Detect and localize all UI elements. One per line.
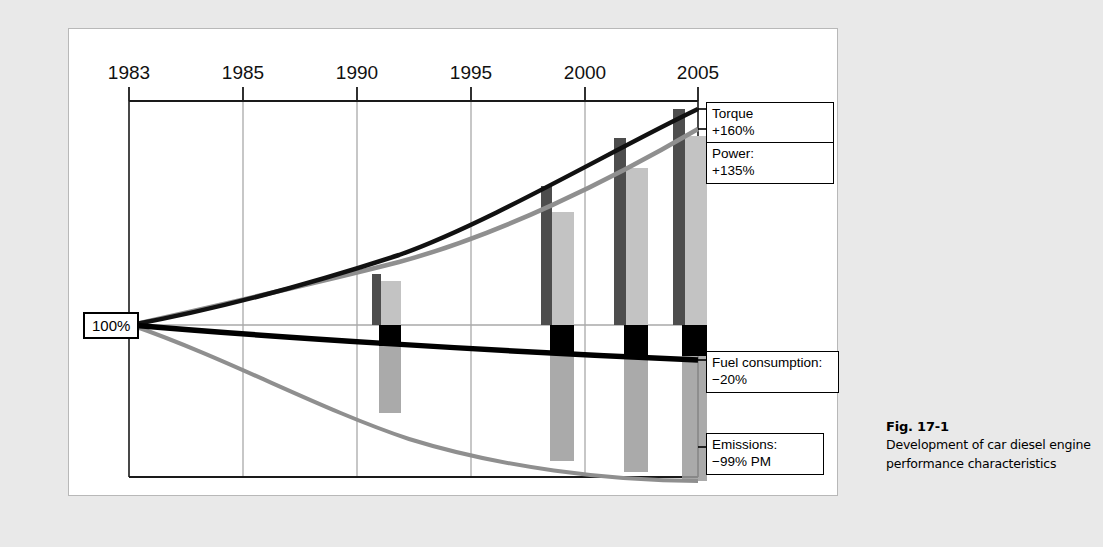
figure-caption-line-1: Development of car diesel engine (886, 435, 1096, 454)
curve-emissions (131, 325, 698, 481)
figure-caption-line-2: performance characteristics (886, 454, 1096, 473)
bar-power-1991 (379, 281, 401, 325)
bar-torque-1991 (372, 274, 381, 325)
curve-fuel-consumption (131, 325, 698, 360)
callout-fuel-consumption: Fuel consumption: −20% (706, 351, 839, 393)
callout-torque: Torque +160% (706, 102, 834, 144)
callout-fuel-value: −20% (712, 372, 833, 389)
callout-emissions: Emissions: −99% PM (706, 433, 824, 475)
bar-group-2002 (614, 138, 648, 472)
bar-fuel-2002 (624, 325, 648, 355)
bar-torque-2002 (614, 138, 626, 325)
bar-group-1998 (541, 186, 574, 461)
curve-power (131, 129, 698, 325)
callout-emissions-value: −99% PM (712, 454, 818, 471)
bar-group-2004 (673, 109, 707, 481)
callout-torque-value: +160% (712, 123, 828, 140)
curve-torque (131, 109, 698, 325)
bar-power-2004 (682, 136, 707, 325)
axis-tick-marks (129, 87, 698, 101)
chart-plot-area (69, 29, 839, 497)
figure-card: 1983 1985 1990 1995 2000 2005 (68, 28, 838, 496)
baseline-badge-100-percent: 100% (83, 312, 139, 339)
callout-fuel-title: Fuel consumption: (712, 355, 822, 370)
bar-fuel-2004 (682, 325, 707, 356)
figure-caption: Fig. 17-1 Development of car diesel engi… (886, 418, 1096, 473)
callout-power-value: +135% (712, 163, 828, 180)
gridlines-vertical (129, 101, 698, 477)
bar-fuel-1998 (550, 325, 574, 352)
callout-torque-title: Torque (712, 106, 753, 121)
callout-emissions-title: Emissions: (712, 437, 777, 452)
bar-power-2002 (624, 168, 648, 325)
callout-power-title: Power: (712, 146, 754, 161)
callout-power: Power: +135% (706, 142, 834, 184)
bar-power-1998 (550, 212, 574, 325)
figure-number: Fig. 17-1 (886, 418, 1096, 435)
